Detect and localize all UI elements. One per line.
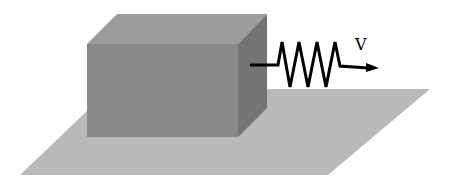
velocity-label: V	[354, 35, 367, 54]
spring	[250, 42, 368, 87]
diagram: V	[0, 0, 457, 186]
box-front-face	[87, 44, 238, 137]
arrow-head-icon	[366, 63, 379, 72]
box-top-face	[87, 14, 267, 44]
diagram-canvas: V	[0, 0, 457, 186]
